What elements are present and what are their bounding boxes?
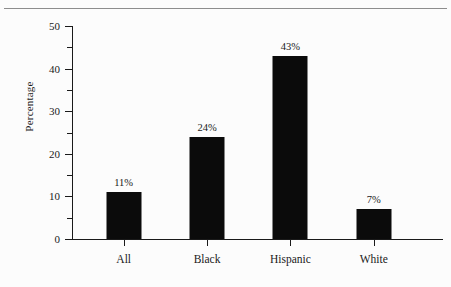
y-tick-label: 0: [55, 233, 61, 245]
y-axis-title: Percentage: [16, 0, 42, 213]
bar: 24%: [190, 137, 225, 239]
plot-area: 01020304050 11%24%43%7% AllBlackHispanic…: [72, 26, 443, 239]
y-tick-label: 50: [49, 20, 60, 32]
x-category-label: Hispanic: [270, 253, 311, 265]
bar: 7%: [356, 209, 391, 239]
y-tick-minor: [67, 47, 73, 48]
x-tick: [124, 239, 125, 246]
x-tick: [290, 239, 291, 246]
y-tick-label: 20: [49, 148, 60, 160]
bar-value-label: 7%: [367, 194, 381, 205]
y-tick-major: [65, 69, 73, 70]
y-tick-label: 40: [49, 63, 60, 75]
figure-top-divider: [4, 8, 447, 9]
chart-figure: Percentage 01020304050 11%24%43%7% AllBl…: [0, 0, 451, 287]
y-tick-major: [65, 111, 73, 112]
y-tick-major: [65, 239, 73, 240]
y-tick-minor: [67, 133, 73, 134]
y-tick-major: [65, 26, 73, 27]
bar: 43%: [273, 56, 308, 239]
x-category-label: Black: [194, 253, 221, 265]
y-tick-major: [65, 154, 73, 155]
y-tick-minor: [67, 218, 73, 219]
x-category-label: White: [360, 253, 388, 265]
y-tick-label: 10: [49, 190, 60, 202]
x-tick: [207, 239, 208, 246]
y-tick-minor: [67, 90, 73, 91]
y-tick-label: 30: [49, 105, 60, 117]
y-tick-major: [65, 196, 73, 197]
bar: 11%: [106, 192, 141, 239]
x-category-label: All: [116, 253, 131, 265]
bar-value-label: 24%: [197, 122, 216, 133]
x-tick: [374, 239, 375, 246]
bar-value-label: 43%: [281, 41, 300, 52]
bar-value-label: 11%: [114, 177, 133, 188]
y-tick-minor: [67, 175, 73, 176]
x-axis-line: [72, 239, 443, 240]
